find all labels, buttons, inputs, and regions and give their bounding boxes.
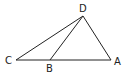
segment-cd (16, 16, 83, 60)
label-d: D (79, 3, 87, 14)
triangle-diagram: D C B A (0, 0, 131, 74)
segment-bd (50, 16, 83, 60)
segment-da (83, 16, 111, 60)
label-a: A (114, 56, 121, 67)
label-c: C (5, 55, 12, 66)
label-b: B (46, 63, 53, 74)
